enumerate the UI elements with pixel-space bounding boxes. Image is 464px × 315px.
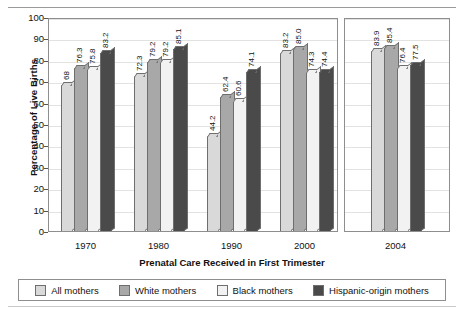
bar-value-label: 83.9 bbox=[373, 31, 381, 47]
legend-item[interactable]: All mothers bbox=[35, 285, 99, 296]
legend-item[interactable]: Black mothers bbox=[217, 285, 293, 296]
bar-value-label: 76.3 bbox=[76, 47, 84, 63]
y-tick-label: 100 bbox=[10, 13, 44, 23]
legend-item[interactable]: White mothers bbox=[119, 285, 196, 296]
x-tick-label: 1990 bbox=[208, 240, 256, 251]
y-tick-label: 40 bbox=[10, 142, 44, 152]
bar-value-label: 62.4 bbox=[222, 77, 230, 93]
plot-panel-main: 6876.375.883.272.379.279.285.144.262.460… bbox=[48, 18, 338, 232]
y-tick-label: 80 bbox=[10, 56, 44, 66]
y-tick-label: 60 bbox=[10, 99, 44, 109]
bar: 79.2 bbox=[147, 62, 159, 231]
bar: 60.6 bbox=[233, 101, 245, 231]
bar-value-label: 74.3 bbox=[308, 51, 316, 67]
gridline bbox=[345, 40, 449, 41]
y-tick-label: 10 bbox=[10, 206, 44, 216]
bar: 74.4 bbox=[319, 72, 331, 231]
bar-value-label: 72.3 bbox=[136, 56, 144, 72]
bar: 76.4 bbox=[397, 68, 409, 231]
bottom-divider-rule bbox=[8, 306, 456, 307]
bar: 72.3 bbox=[134, 76, 146, 231]
y-tick-mark bbox=[44, 232, 48, 233]
legend-label: Hispanic-origin mothers bbox=[329, 285, 429, 296]
legend-item[interactable]: Hispanic-origin mothers bbox=[313, 285, 429, 296]
bar-value-label: 60.6 bbox=[235, 81, 243, 97]
bar-value-label: 85.4 bbox=[386, 28, 394, 44]
bar-value-label: 74.4 bbox=[321, 51, 329, 67]
bar-side-face bbox=[330, 66, 334, 231]
x-tick-label: 1970 bbox=[62, 240, 110, 251]
bar-value-label: 83.2 bbox=[282, 32, 290, 48]
legend-swatch-icon bbox=[217, 285, 228, 296]
bar: 85.4 bbox=[384, 48, 396, 231]
y-tick-label: 70 bbox=[10, 77, 44, 87]
y-tick-label: 90 bbox=[10, 35, 44, 45]
gridline bbox=[345, 19, 449, 20]
bar-value-label: 79.2 bbox=[149, 41, 157, 57]
bar: 76.3 bbox=[74, 68, 86, 231]
top-divider-rule bbox=[8, 7, 456, 8]
x-axis-title: Prenatal Care Received in First Trimeste… bbox=[0, 257, 464, 268]
bar-value-label: 44.2 bbox=[209, 116, 217, 132]
bar-value-label: 74.1 bbox=[248, 52, 256, 68]
chart-figure: Percentage of Live Births 01020304050607… bbox=[0, 0, 464, 315]
bar-value-label: 83.2 bbox=[102, 32, 110, 48]
bar: 85.0 bbox=[293, 49, 305, 231]
bar: 74.3 bbox=[306, 72, 318, 231]
y-tick-label: 20 bbox=[10, 184, 44, 194]
x-tick-label: 2004 bbox=[372, 240, 420, 251]
y-tick-label: 0 bbox=[10, 227, 44, 237]
bar-value-label: 85.0 bbox=[295, 29, 303, 45]
bar: 79.2 bbox=[160, 62, 172, 231]
gridline bbox=[49, 19, 337, 20]
legend-swatch-icon bbox=[35, 285, 46, 296]
bar: 83.9 bbox=[371, 51, 383, 231]
bar-side-face bbox=[184, 43, 188, 231]
bar: 77.5 bbox=[410, 65, 422, 231]
legend-label: All mothers bbox=[51, 285, 99, 296]
legend-label: White mothers bbox=[135, 285, 196, 296]
bar-value-label: 76.4 bbox=[399, 47, 407, 63]
bar-value-label: 85.1 bbox=[175, 28, 183, 44]
chart-legend: All mothersWhite mothersBlack mothersHis… bbox=[18, 279, 446, 301]
bar-value-label: 77.5 bbox=[412, 45, 420, 61]
bar: 68 bbox=[61, 85, 73, 231]
legend-swatch-icon bbox=[119, 285, 130, 296]
bar-side-face bbox=[421, 59, 425, 231]
y-axis-tick-labels: 0102030405060708090100 bbox=[10, 18, 44, 232]
bar-value-label: 68 bbox=[63, 72, 71, 81]
legend-swatch-icon bbox=[313, 285, 324, 296]
legend-label: Black mothers bbox=[233, 285, 293, 296]
bar-value-label: 75.8 bbox=[89, 48, 97, 64]
bar: 85.1 bbox=[173, 49, 185, 231]
plot-panel-2004: 83.985.476.477.5 bbox=[344, 18, 450, 232]
bar: 75.8 bbox=[87, 69, 99, 231]
x-tick-label: 1980 bbox=[135, 240, 183, 251]
bar: 83.2 bbox=[280, 53, 292, 231]
bar-value-label: 79.2 bbox=[162, 41, 170, 57]
x-tick-label: 2000 bbox=[281, 240, 329, 251]
bar: 62.4 bbox=[220, 97, 232, 231]
bar-side-face bbox=[257, 67, 261, 231]
y-tick-label: 50 bbox=[10, 120, 44, 130]
bar: 44.2 bbox=[207, 136, 219, 231]
y-tick-label: 30 bbox=[10, 163, 44, 173]
bar-side-face bbox=[111, 47, 115, 231]
bar: 83.2 bbox=[100, 53, 112, 231]
bar: 74.1 bbox=[246, 72, 258, 231]
